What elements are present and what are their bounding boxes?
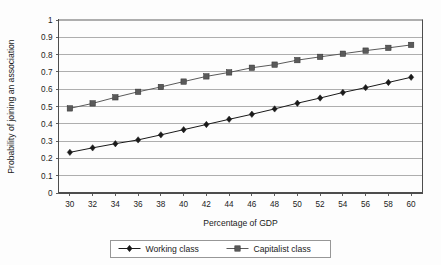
line-chart: 30323436384042444648505254565860 00.10.2… — [0, 0, 441, 265]
svg-text:0.5: 0.5 — [41, 103, 53, 112]
gridlines-group — [59, 20, 423, 193]
svg-text:36: 36 — [134, 200, 144, 209]
series-1 — [67, 74, 413, 155]
svg-text:0: 0 — [48, 189, 53, 198]
y-axis-title: Probability of joining an association — [6, 39, 16, 173]
legend-label-1: Working class — [146, 244, 199, 254]
svg-text:0.6: 0.6 — [41, 85, 53, 94]
svg-text:0.8: 0.8 — [41, 51, 53, 60]
svg-text:0.7: 0.7 — [41, 68, 53, 77]
svg-text:40: 40 — [179, 200, 189, 209]
svg-text:32: 32 — [88, 200, 98, 209]
svg-text:34: 34 — [111, 200, 121, 209]
series-2 — [67, 42, 414, 111]
svg-text:54: 54 — [338, 200, 348, 209]
legend-label-2: Capitalist class — [254, 244, 311, 254]
x-tick-group: 30323436384042444648505254565860 — [65, 193, 416, 209]
svg-text:52: 52 — [316, 200, 326, 209]
svg-text:0.1: 0.1 — [41, 172, 53, 181]
svg-text:0.2: 0.2 — [41, 154, 53, 163]
svg-text:46: 46 — [247, 200, 257, 209]
svg-text:0.4: 0.4 — [41, 120, 53, 129]
svg-text:38: 38 — [156, 200, 166, 209]
svg-text:58: 58 — [384, 200, 394, 209]
data-series-group — [67, 42, 414, 155]
svg-text:42: 42 — [202, 200, 212, 209]
svg-text:44: 44 — [225, 200, 235, 209]
svg-text:48: 48 — [270, 200, 280, 209]
y-tick-group: 00.10.20.30.40.50.60.70.80.91 — [41, 16, 58, 198]
svg-text:56: 56 — [361, 200, 371, 209]
chart-figure: 30323436384042444648505254565860 00.10.2… — [0, 0, 441, 265]
x-axis-title: Percentage of GDP — [203, 218, 278, 228]
legend: Working classCapitalist class — [111, 240, 331, 257]
plot-frame — [59, 19, 423, 193]
svg-text:0.3: 0.3 — [41, 137, 53, 146]
svg-text:30: 30 — [65, 200, 75, 209]
svg-text:50: 50 — [293, 200, 303, 209]
svg-text:1: 1 — [48, 16, 53, 25]
svg-text:0.9: 0.9 — [41, 33, 53, 42]
svg-text:60: 60 — [407, 200, 417, 209]
